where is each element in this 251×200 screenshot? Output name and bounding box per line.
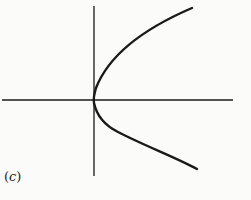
parabola-curve <box>94 8 197 169</box>
diagram-canvas <box>0 0 251 200</box>
figure-label: (c) <box>4 169 21 184</box>
